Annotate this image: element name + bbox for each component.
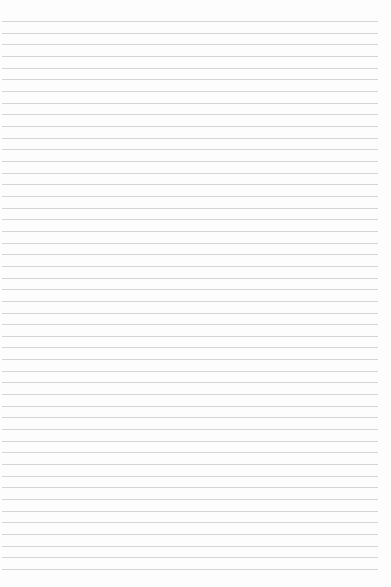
ruled-line — [2, 196, 378, 197]
ruled-line — [2, 103, 378, 104]
ruled-line — [2, 406, 378, 407]
ruled-line — [2, 499, 378, 500]
ruled-line — [2, 254, 378, 255]
ruled-line — [2, 56, 378, 57]
ruled-line — [2, 557, 378, 558]
ruled-line — [2, 464, 378, 465]
ruled-line — [2, 219, 378, 220]
ruled-line — [2, 79, 378, 80]
ruled-line — [2, 208, 378, 209]
ruled-line — [2, 161, 378, 162]
ruled-line — [2, 476, 378, 477]
ruled-line — [2, 452, 378, 453]
ruled-line — [2, 173, 378, 174]
ruled-line — [2, 313, 378, 314]
ruled-line — [2, 441, 378, 442]
ruled-line — [2, 417, 378, 418]
ruled-line — [2, 21, 378, 22]
ruled-line — [2, 546, 378, 547]
ruled-line — [2, 324, 378, 325]
ruled-line — [2, 511, 378, 512]
ruled-line — [2, 382, 378, 383]
ruled-line — [2, 289, 378, 290]
ruled-line — [2, 371, 378, 372]
ruled-line — [2, 114, 378, 115]
ruled-line — [2, 429, 378, 430]
ruled-line — [2, 184, 378, 185]
ruled-line — [2, 138, 378, 139]
ruled-line — [2, 243, 378, 244]
ruled-line — [2, 487, 378, 488]
ruled-line — [2, 569, 378, 570]
ruled-line — [2, 347, 378, 348]
ruled-line — [2, 359, 378, 360]
ruled-line — [2, 68, 378, 69]
ruled-line — [2, 91, 378, 92]
lined-paper — [0, 0, 391, 587]
ruled-line — [2, 149, 378, 150]
ruled-line — [2, 278, 378, 279]
ruled-line — [2, 33, 378, 34]
ruled-line — [2, 336, 378, 337]
ruled-line — [2, 522, 378, 523]
ruled-line — [2, 301, 378, 302]
ruled-line — [2, 394, 378, 395]
ruled-line — [2, 534, 378, 535]
ruled-line — [2, 231, 378, 232]
ruled-line — [2, 126, 378, 127]
ruled-line — [2, 44, 378, 45]
ruled-line — [2, 266, 378, 267]
